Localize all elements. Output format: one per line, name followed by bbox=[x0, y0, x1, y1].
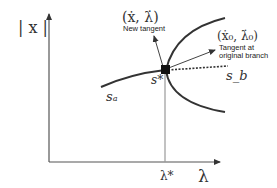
x-axis-label: λ bbox=[198, 166, 209, 186]
lambda-star-label: λ* bbox=[160, 169, 174, 183]
original-tangent-caption-2: original branch bbox=[219, 51, 268, 60]
original-tangent-math: (ẋ₀, λ̇₀) bbox=[217, 29, 258, 43]
bifurcation-diagram: | x | λ λ* (ẋ, λ̇) New tangent (ẋ₀, λ̇₀)… bbox=[0, 0, 277, 188]
s-a-label: sₐ bbox=[106, 89, 118, 104]
new-tangent-math: (ẋ, λ̇) bbox=[122, 9, 159, 25]
s-b-label: s_b bbox=[226, 68, 248, 83]
new-tangent-caption: New tangent bbox=[123, 24, 166, 33]
branch-s-b-dotted bbox=[168, 66, 228, 70]
new-tangent-arrow bbox=[154, 36, 164, 70]
s-star-label: s* bbox=[151, 73, 163, 87]
y-axis-label: | x | bbox=[18, 18, 48, 37]
